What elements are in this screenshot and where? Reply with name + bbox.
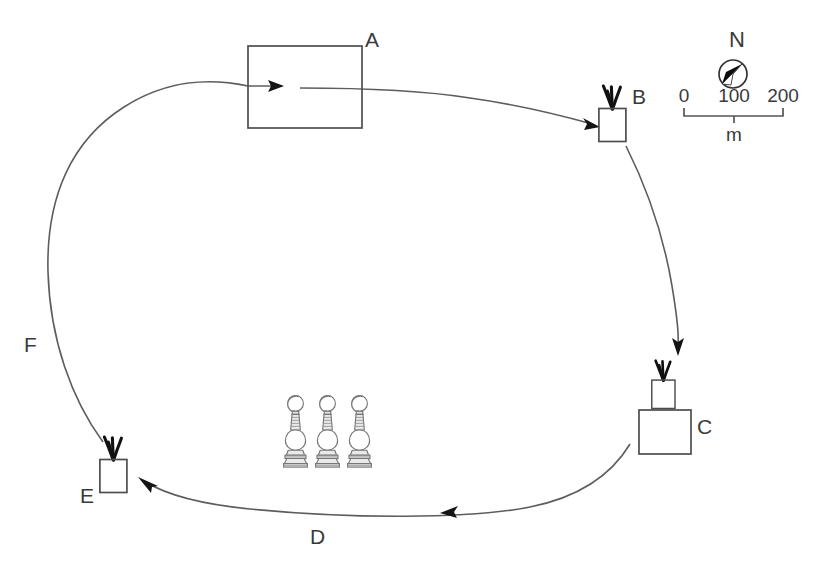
route-map-svg: A B C E F D: [0, 0, 825, 561]
scale-bar: 0 100 200 m: [679, 85, 799, 145]
node-B[interactable]: B: [599, 85, 646, 142]
arrowhead-into-B: [583, 118, 600, 130]
scale-tick-100-label: 100: [718, 85, 750, 106]
scale-bar-line: [684, 108, 783, 116]
planted-pot-e-icon: [100, 437, 127, 493]
stupa-3: [348, 396, 372, 468]
scale-tick-200-label: 200: [767, 85, 799, 106]
path-d-label: D: [310, 525, 325, 548]
node-E[interactable]: E: [80, 437, 127, 507]
node-C[interactable]: C: [639, 361, 712, 454]
stupa-1: [284, 396, 308, 468]
planted-pot-c-icon: [652, 361, 675, 409]
route-path-D: [138, 444, 630, 518]
path-f-label: F: [24, 333, 37, 356]
compass-rose: N: [719, 27, 747, 88]
route-path-F: [48, 80, 600, 442]
figure-canvas: A B C E F D: [0, 0, 825, 561]
planted-pot-b-icon: [599, 86, 626, 142]
compass-north-label: N: [729, 27, 745, 52]
scale-tick-0-label: 0: [679, 85, 690, 106]
node-e-label: E: [80, 484, 94, 507]
building-c-rect: [639, 410, 691, 454]
node-A[interactable]: A: [248, 28, 379, 128]
node-b-label: B: [632, 85, 646, 108]
route-path-B-to-C: [626, 146, 684, 356]
arrowhead-into-E: [138, 477, 158, 493]
scale-unit-label: m: [726, 124, 742, 145]
node-a-label: A: [365, 28, 379, 51]
stupa-cluster: [284, 396, 372, 468]
node-c-label: C: [697, 415, 712, 438]
stupa-2: [316, 396, 340, 468]
building-a-rect: [248, 46, 362, 128]
